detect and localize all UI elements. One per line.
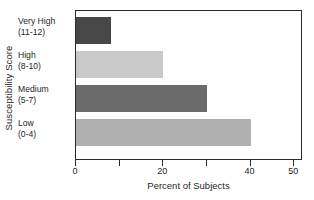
x-tick-label-50: 50 [288, 166, 298, 177]
bar-medium [76, 85, 207, 112]
x-tick-label-0: 0 [72, 166, 77, 177]
category-name: Very High [18, 16, 73, 27]
x-axis-title: Percent of Subjects [75, 180, 302, 192]
category-label-high: High (8-10) [18, 50, 73, 71]
category-range: (8-10) [18, 61, 73, 72]
category-label-low: Low (0-4) [18, 118, 73, 139]
x-tick-label-20: 20 [157, 166, 167, 177]
category-name: Medium [18, 84, 73, 95]
category-range: (0-4) [18, 129, 73, 140]
x-axis-tick-labels: 0204050 [75, 166, 302, 178]
bar-low [76, 119, 251, 146]
category-label-medium: Medium (5-7) [18, 84, 73, 105]
plot-area [75, 10, 302, 160]
category-name: High [18, 50, 73, 61]
category-range: (11-12) [18, 27, 73, 38]
bar-high [76, 51, 163, 78]
y-axis-title: Susceptibility Score [2, 8, 16, 168]
category-label-very-high: Very High (11-12) [18, 16, 73, 37]
category-range: (5-7) [18, 95, 73, 106]
category-label-list: Very High (11-12) High (8-10) Medium (5-… [18, 10, 73, 160]
bar-very-high [76, 17, 111, 44]
bars-layer [76, 11, 301, 159]
category-name: Low [18, 118, 73, 129]
x-tick-label-40: 40 [245, 166, 255, 177]
bar-chart-figure: Susceptibility Score Very High (11-12) H… [0, 0, 314, 200]
